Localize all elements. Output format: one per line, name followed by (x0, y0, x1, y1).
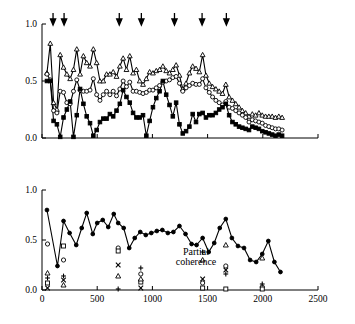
partial-marker-plus (138, 266, 143, 271)
marker-circle-filled (85, 211, 89, 215)
marker-circle-open (204, 86, 208, 90)
marker-square-filled (171, 115, 175, 119)
marker-circle-filled (248, 258, 252, 262)
marker-circle-filled (279, 270, 283, 274)
marker-circle-filled (45, 208, 49, 212)
marker-circle-open (280, 128, 284, 132)
marker-circle-filled (155, 229, 159, 233)
marker-square-filled (145, 134, 149, 138)
marker-triangle-open (78, 72, 83, 76)
marker-square-filled (168, 103, 172, 107)
marker-circle-open (55, 111, 59, 115)
marker-square-filled (118, 102, 122, 106)
marker-circle-filled (138, 230, 142, 234)
marker-square-filled (280, 134, 284, 138)
marker-circle-open (201, 77, 205, 81)
marker-circle-filled (95, 221, 99, 225)
marker-square-filled (68, 100, 72, 104)
marker-square-filled (151, 105, 155, 109)
marker-triangle-open (121, 56, 126, 60)
marker-square-filled (161, 79, 165, 83)
marker-circle-open (75, 78, 79, 82)
marker-circle-filled (112, 212, 116, 216)
marker-square-filled (154, 96, 158, 100)
annotation-partial-line2: coherence (176, 256, 217, 267)
marker-square-filled (105, 117, 109, 121)
marker-triangle-open (134, 67, 139, 71)
marker-circle-filled (62, 219, 66, 223)
marker-triangle-open (94, 60, 99, 64)
marker-circle-filled (218, 226, 222, 230)
marker-square-filled (55, 123, 59, 127)
marker-square-filled (227, 113, 231, 117)
partial-marker-triangle (138, 277, 143, 282)
marker-square-filled (111, 115, 115, 119)
marker-circle-open (62, 90, 66, 94)
marker-circle-open (128, 80, 132, 84)
marker-square-filled (48, 79, 52, 83)
marker-circle-filled (122, 226, 126, 230)
marker-square-filled (184, 129, 188, 133)
marker-circle-filled (254, 260, 258, 264)
marker-triangle-open (111, 69, 116, 73)
marker-triangle-open (84, 60, 89, 64)
x-tick-label-1: 500 (90, 294, 105, 304)
marker-triangle-open (64, 72, 69, 76)
marker-triangle-open (48, 41, 53, 45)
partial-marker-circle (224, 264, 228, 268)
marker-circle-open (71, 89, 75, 93)
partial-marker-cross (116, 263, 121, 268)
x-tick-label-2: 1000 (143, 294, 162, 304)
series-line-ordinary-coherence (47, 210, 280, 272)
marker-triangle-open (58, 52, 63, 56)
marker-circle-filled (56, 264, 60, 268)
marker-square-filled (224, 102, 228, 106)
marker-triangle-open (127, 54, 132, 58)
marker-triangle-open (91, 47, 96, 51)
marker-square-filled (191, 112, 195, 116)
marker-circle-open (98, 98, 102, 102)
marker-square-filled (72, 135, 76, 139)
marker-triangle-open (280, 115, 285, 119)
marker-triangle-open (137, 79, 142, 83)
marker-triangle-open (223, 82, 228, 86)
marker-triangle-open (124, 67, 129, 71)
marker-circle-filled (201, 236, 205, 240)
marker-circle-open (207, 90, 211, 94)
marker-square-filled (85, 115, 89, 119)
partial-marker-square (224, 287, 228, 291)
marker-square-filled (174, 101, 178, 105)
marker-triangle-open (257, 111, 262, 115)
marker-triangle-open (200, 52, 205, 56)
partial-marker-square (260, 287, 264, 291)
marker-circle-filled (224, 217, 228, 221)
marker-circle-filled (68, 231, 72, 235)
marker-circle-filled (127, 246, 131, 250)
marker-circle-filled (80, 226, 84, 230)
arrow-marker-4 (172, 13, 177, 25)
marker-square-filled (148, 119, 152, 123)
marker-circle-filled (242, 246, 246, 250)
marker-square-filled (201, 111, 205, 115)
marker-triangle-open (71, 67, 76, 71)
marker-triangle-open (61, 65, 66, 69)
arrow-marker-2 (117, 13, 122, 25)
arrow-marker-5 (199, 13, 204, 25)
partial-marker-square (46, 281, 50, 285)
marker-circle-filled (230, 236, 234, 240)
partial-marker-triangle (61, 283, 66, 288)
marker-circle-open (115, 94, 119, 98)
marker-circle-open (197, 82, 201, 86)
marker-circle-open (95, 93, 99, 97)
partial-marker-square (201, 286, 205, 290)
partial-marker-circle (61, 258, 65, 262)
arrow-marker-3 (139, 13, 144, 25)
arrow-marker-0 (50, 13, 55, 25)
marker-triangle-open (207, 81, 212, 85)
marker-circle-open (108, 93, 112, 97)
partial-marker-circle (201, 281, 205, 285)
marker-circle-open (158, 84, 162, 88)
arrow-marker-6 (224, 13, 229, 25)
marker-triangle-open (204, 73, 209, 77)
marker-circle-filled (166, 231, 170, 235)
